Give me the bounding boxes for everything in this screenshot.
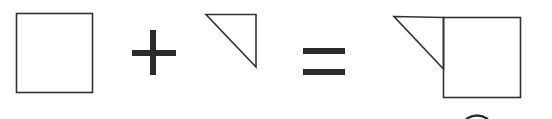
equals-top-bar [303,48,345,54]
shape-equation-canvas [0,0,552,119]
equals-bottom-bar [303,69,345,75]
plus-vertical-bar [150,30,156,75]
